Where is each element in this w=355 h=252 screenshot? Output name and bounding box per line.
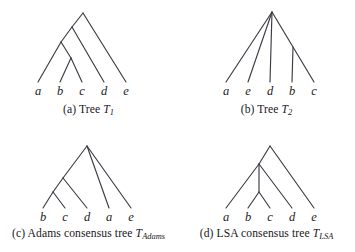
branch-node3-to-c [71, 58, 82, 82]
branch-root-to-e [87, 146, 131, 208]
branch-root-to-node1 [72, 13, 83, 27]
branch-root-to-e [248, 12, 272, 82]
branch-node2-to-b [43, 192, 53, 208]
branch-root-to-node1 [259, 146, 270, 164]
caption-text: (b) Tree [241, 103, 282, 116]
branch-root-to-e [83, 13, 126, 82]
tree-panel-b: a e d b c (b) Tree T2 [178, 0, 355, 126]
caption-subscript: LSA [319, 232, 333, 241]
branch-node2-to-b [248, 192, 259, 208]
caption-text: (a) Tree [63, 103, 103, 116]
consensus-tree-figure: a b c d e (a) Tree T1 a e d b c (b) [0, 0, 355, 252]
panel-caption-d: (d) LSA consensus tree TLSA [178, 227, 355, 241]
branch-node2-to-node3 [61, 42, 71, 58]
branch-node1-to-d [63, 178, 87, 208]
branch-root-to-e [270, 146, 314, 208]
branch-node3-to-b [60, 58, 71, 82]
branch-root-to-a [87, 146, 109, 208]
branch-root-to-a [226, 12, 272, 82]
branch-node1-to-d [72, 27, 104, 82]
branch-node2-to-c [259, 192, 270, 208]
tree-panel-a: a b c d e (a) Tree T1 [0, 0, 177, 126]
tree-panel-c: b c d a e (c) Adams consensus tree TAdam… [0, 126, 177, 252]
caption-subscript: 2 [288, 108, 292, 117]
branch-node2-to-c [53, 192, 65, 208]
panel-caption-b: (b) Tree T2 [178, 103, 355, 117]
panel-caption-c: (c) Adams consensus tree TAdams [0, 227, 177, 241]
branch-node1-to-node2 [53, 178, 63, 192]
branch-node1-to-a [226, 164, 259, 208]
branch-root-to-node1 [63, 146, 87, 178]
branch-root-to-d [270, 12, 272, 82]
caption-text: (c) Adams consensus tree [12, 227, 136, 240]
branch-nodebc-to-b [292, 47, 293, 82]
tree-panel-d: a b c d e (d) LSA consensus tree TLSA [178, 126, 355, 252]
caption-subscript: Adams [142, 232, 165, 241]
branch-node2-to-a [38, 42, 61, 82]
caption-subscript: 1 [110, 108, 114, 117]
panel-caption-a: (a) Tree T1 [0, 103, 177, 117]
caption-text: (d) LSA consensus tree [200, 227, 313, 240]
branch-node1-to-node2 [61, 27, 72, 42]
